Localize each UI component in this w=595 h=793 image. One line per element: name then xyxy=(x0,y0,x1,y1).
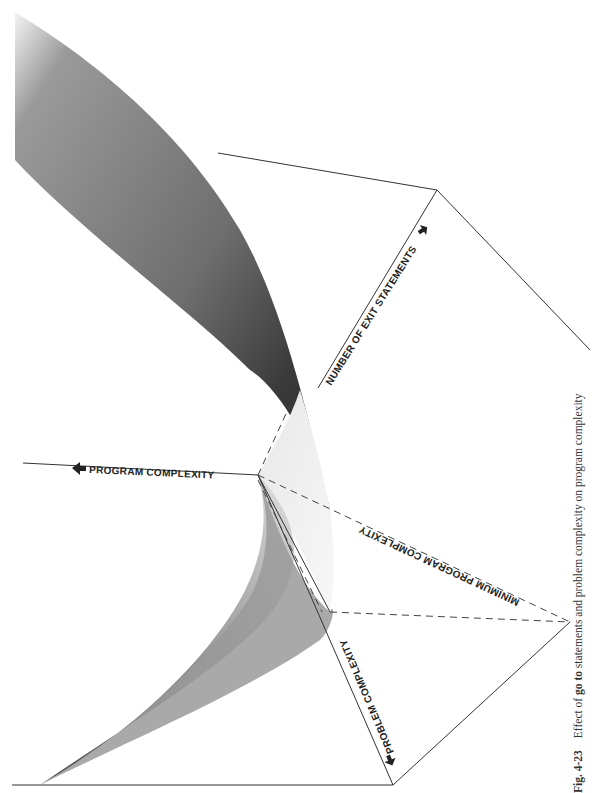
caption-prefix: Effect of xyxy=(572,695,584,738)
figure-caption: Fig. 4-23Effect of go to statements and … xyxy=(572,0,584,793)
complexity-surface-diagram: PROGRAM COMPLEXITY NUMBER OF EXIT STATEM… xyxy=(0,0,595,793)
arrow-up-right-icon xyxy=(416,222,431,237)
svg-text:PROGRAM COMPLEXITY: PROGRAM COMPLEXITY xyxy=(89,464,215,480)
svg-text:MINIMUM PROGRAM COMPLEXITY: MINIMUM PROGRAM COMPLEXITY xyxy=(357,524,521,608)
exit-statements-axis-line xyxy=(318,190,437,388)
caption-suffix: statements and problem complexity on pro… xyxy=(572,393,584,671)
svg-text:NUMBER OF EXIT STATEMENTS: NUMBER OF EXIT STATEMENTS xyxy=(323,244,418,387)
top-back-edge xyxy=(218,153,437,190)
label-problem-complexity: PROBLEM COMPLEXITY xyxy=(338,638,398,768)
caption-keyword: go to xyxy=(572,671,584,695)
minimum-base-dashed-line xyxy=(330,612,570,622)
figure-number: Fig. 4-23 xyxy=(572,750,584,793)
bottom-right-edge xyxy=(393,622,570,785)
svg-text:PROBLEM COMPLEXITY: PROBLEM COMPLEXITY xyxy=(338,638,396,756)
label-minimum-program-complexity: MINIMUM PROGRAM COMPLEXITY xyxy=(357,524,521,608)
label-program-complexity: PROGRAM COMPLEXITY xyxy=(72,462,215,480)
label-exit-statements: NUMBER OF EXIT STATEMENTS xyxy=(323,222,430,387)
right-back-edge xyxy=(437,190,590,350)
arrow-left-icon xyxy=(72,462,86,475)
